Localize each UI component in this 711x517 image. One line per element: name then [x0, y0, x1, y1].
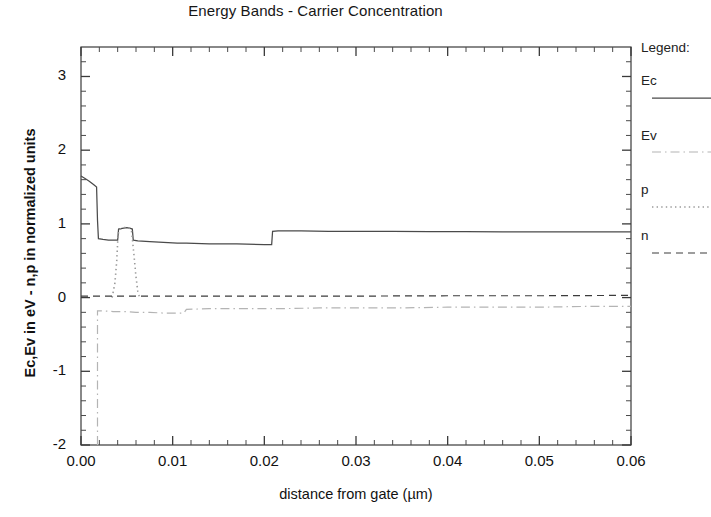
plot-canvas — [0, 0, 711, 517]
x-tick-label: 0.01 — [138, 452, 208, 469]
chart-figure: Energy Bands - Carrier Concentration Ec,… — [0, 0, 711, 517]
series-line-Ev — [98, 306, 632, 445]
x-tick-label: 0.02 — [229, 452, 299, 469]
legend-label-p: p — [641, 182, 649, 197]
legend-sample-Ec — [652, 96, 711, 98]
y-tick-label: 3 — [10, 66, 66, 83]
series-line-Ec — [81, 176, 631, 245]
x-tick-label: 0.05 — [504, 452, 574, 469]
x-tick-label: 0.04 — [413, 452, 483, 469]
legend-title: Legend: — [641, 40, 690, 55]
legend-label-n: n — [641, 228, 649, 243]
y-tick-label: 1 — [10, 214, 66, 231]
axes-frame — [81, 47, 631, 445]
y-tick-label: -1 — [10, 361, 66, 378]
y-tick-label: -2 — [10, 435, 66, 452]
x-tick-label: 0.03 — [321, 452, 391, 469]
y-tick-label: 0 — [10, 288, 66, 305]
legend-sample-Ev — [652, 150, 711, 152]
legend-label-Ec: Ec — [641, 73, 657, 88]
x-tick-label: 0.00 — [46, 452, 116, 469]
legend-label-Ev: Ev — [641, 128, 657, 143]
series-line-n — [81, 295, 631, 296]
x-tick-label: 0.06 — [596, 452, 666, 469]
y-tick-label: 2 — [10, 140, 66, 157]
legend-sample-p — [652, 205, 711, 207]
series-line-p — [112, 228, 140, 298]
legend-sample-n — [652, 251, 711, 253]
